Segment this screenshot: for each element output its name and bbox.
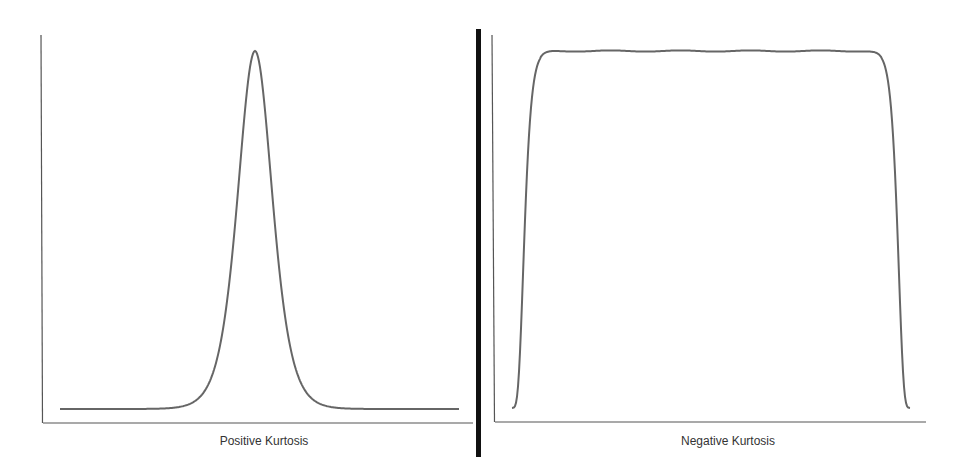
- right-chart: [492, 35, 926, 422]
- right-y-axis: [492, 35, 495, 422]
- divider-bar: [476, 29, 481, 457]
- negative-kurtosis-label: Negative Kurtosis: [628, 434, 828, 448]
- kurtosis-figure: [0, 0, 963, 474]
- left-y-axis: [41, 35, 43, 423]
- positive-kurtosis-curve: [60, 51, 459, 409]
- positive-kurtosis-label: Positive Kurtosis: [164, 434, 364, 448]
- negative-kurtosis-curve: [512, 50, 910, 408]
- left-chart: [41, 35, 473, 423]
